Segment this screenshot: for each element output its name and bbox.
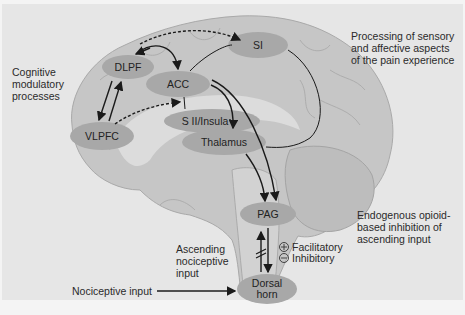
cognitive-modulatory-annotation: Cognitive modulatory processes [12,66,64,102]
pag-label: PAG [250,209,286,220]
endogenous-opioid-annotation: Endogenous opioid- based inhibition of a… [357,209,450,245]
si-label: SI [243,40,273,51]
inhibitory-label: Inhibitory [292,252,335,264]
dorsal-horn-label: Dorsal horn [242,278,292,300]
dlpf-label: DLPF [108,62,148,73]
nociceptive-input-annotation: Nociceptive input [72,285,152,297]
acc-label: ACC [158,79,198,90]
pain-experience-annotation: Processing of sensory and affective aspe… [351,30,454,66]
ascending-nociceptive-annotation: Ascending nociceptive input [176,243,229,279]
sii-insula-label: S II/Insula [165,116,245,127]
thalamus-label: Thalamus [190,137,258,148]
vlpfc-label: VLPFC [78,131,126,142]
